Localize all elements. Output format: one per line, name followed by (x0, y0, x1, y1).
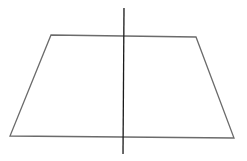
vertical-symmetry-line (123, 8, 124, 154)
diagram-canvas (0, 0, 247, 161)
trapezoid-shape (10, 35, 234, 138)
